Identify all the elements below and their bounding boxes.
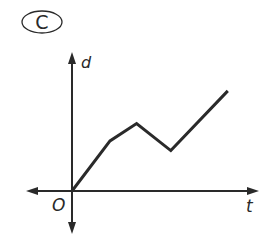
- y-axis-up-arrow-icon: [68, 52, 76, 64]
- origin-label: O: [52, 195, 65, 215]
- y-axis-down-arrow-icon: [68, 222, 76, 234]
- option-label: C: [35, 11, 48, 33]
- distance-time-graph: C d O t: [0, 0, 266, 234]
- y-axis-label: d: [81, 53, 92, 72]
- x-axis-label: t: [246, 196, 254, 216]
- distance-line: [72, 91, 228, 191]
- x-axis-right-arrow-icon: [247, 187, 259, 195]
- x-axis-left-arrow-icon: [26, 187, 38, 195]
